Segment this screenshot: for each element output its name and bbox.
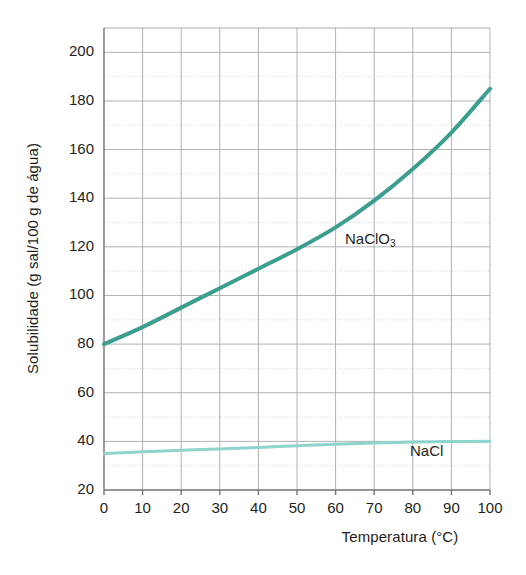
y-tick-label: 20 bbox=[50, 480, 94, 497]
y-tick-label: 160 bbox=[50, 140, 94, 157]
x-tick-label: 70 bbox=[352, 499, 396, 516]
y-axis-title: Solubilidade (g sal/100 g de água) bbox=[24, 59, 41, 459]
x-tick-label: 100 bbox=[468, 499, 512, 516]
x-tick-label: 20 bbox=[159, 499, 203, 516]
y-tick-label: 180 bbox=[50, 91, 94, 108]
series-label-naclo3-text: NaClO bbox=[345, 230, 390, 247]
x-tick-label: 40 bbox=[236, 499, 280, 516]
y-tick-label: 40 bbox=[50, 431, 94, 448]
y-tick-label: 60 bbox=[50, 383, 94, 400]
major-gridlines-x bbox=[143, 28, 452, 490]
series-label-nacl: NaCl bbox=[410, 442, 443, 459]
series-label-naclo3: NaClO3 bbox=[345, 230, 396, 247]
x-tick-label: 30 bbox=[198, 499, 242, 516]
x-axis-title: Temperatura (°C) bbox=[300, 528, 500, 545]
y-tick-label: 100 bbox=[50, 285, 94, 302]
y-tick-label: 140 bbox=[50, 188, 94, 205]
x-tick-label: 10 bbox=[121, 499, 165, 516]
series-label-naclo3-subscript: 3 bbox=[390, 238, 396, 249]
x-tick-label: 90 bbox=[429, 499, 473, 516]
y-tick-label: 120 bbox=[50, 237, 94, 254]
y-tick-label: 200 bbox=[50, 42, 94, 59]
x-tick-label: 80 bbox=[391, 499, 435, 516]
y-tick-label: 80 bbox=[50, 334, 94, 351]
x-tick-label: 0 bbox=[82, 499, 126, 516]
x-tick-label: 50 bbox=[275, 499, 319, 516]
x-tick-label: 60 bbox=[314, 499, 358, 516]
solubility-chart-figure: 20406080100120140160180200 0102030405060… bbox=[0, 0, 526, 575]
x-tickmarks bbox=[104, 490, 490, 495]
